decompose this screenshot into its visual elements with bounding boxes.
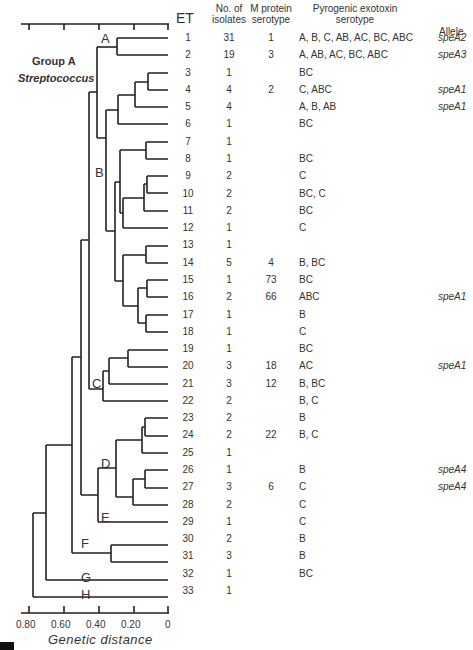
row-et: 33 xyxy=(176,585,200,597)
row-et: 27 xyxy=(176,481,200,493)
row-isolates: 1 xyxy=(217,464,241,476)
top-axis xyxy=(21,24,169,30)
row-et: 32 xyxy=(176,568,200,580)
row-et: 9 xyxy=(176,170,200,182)
row-toxin: C xyxy=(299,222,306,234)
cluster-label-f: F xyxy=(81,536,89,551)
row-allele: speA1 xyxy=(438,84,466,96)
row-et: 8 xyxy=(176,153,200,165)
row-et: 5 xyxy=(176,101,200,113)
row-toxin: B xyxy=(299,550,306,562)
row-et: 16 xyxy=(176,291,200,303)
cluster-label-g: G xyxy=(81,570,91,585)
row-isolates: 2 xyxy=(217,499,241,511)
row-toxin: C xyxy=(299,326,306,338)
row-et: 24 xyxy=(176,429,200,441)
row-isolates: 1 xyxy=(217,568,241,580)
row-m-protein: 12 xyxy=(259,378,283,390)
row-isolates: 3 xyxy=(217,481,241,493)
row-et: 15 xyxy=(176,274,200,286)
row-et: 10 xyxy=(176,188,200,200)
row-m-protein: 1 xyxy=(259,32,283,44)
header-et: ET xyxy=(176,10,194,26)
row-toxin: AC xyxy=(299,360,313,372)
row-et: 17 xyxy=(176,309,200,321)
row-isolates: 1 xyxy=(217,343,241,355)
dendrogram-branches xyxy=(21,24,169,613)
axis-tick-0-20: 0.20 xyxy=(121,619,140,630)
row-isolates: 19 xyxy=(217,49,241,61)
row-et: 31 xyxy=(176,550,200,562)
row-et: 1 xyxy=(176,32,200,44)
row-toxin: C xyxy=(299,516,306,528)
row-et: 19 xyxy=(176,343,200,355)
row-isolates: 4 xyxy=(217,101,241,113)
row-toxin: B, C xyxy=(299,395,318,407)
row-isolates: 1 xyxy=(217,274,241,286)
row-et: 18 xyxy=(176,326,200,338)
row-et: 29 xyxy=(176,516,200,528)
row-et: 13 xyxy=(176,239,200,251)
row-toxin: BC xyxy=(299,343,313,355)
row-m-protein: 6 xyxy=(259,481,283,493)
row-isolates: 1 xyxy=(217,118,241,130)
row-et: 11 xyxy=(176,205,200,217)
header-toxin-line2: serotype xyxy=(300,14,410,25)
row-isolates: 31 xyxy=(217,32,241,44)
row-allele: speA1 xyxy=(438,360,466,372)
row-m-protein: 22 xyxy=(259,429,283,441)
row-toxin: BC xyxy=(299,205,313,217)
row-isolates: 1 xyxy=(217,309,241,321)
row-toxin: BC xyxy=(299,568,313,580)
row-allele: speA3 xyxy=(438,49,466,61)
header-m-protein-line2: serotype xyxy=(248,14,294,25)
row-isolates: 4 xyxy=(217,84,241,96)
row-allele: speA1 xyxy=(438,101,466,113)
row-m-protein: 2 xyxy=(259,84,283,96)
row-et: 14 xyxy=(176,257,200,269)
row-allele: speA2 xyxy=(438,32,466,44)
row-et: 7 xyxy=(176,136,200,148)
row-isolates: 3 xyxy=(217,360,241,372)
header-isolates-line2: isolates xyxy=(208,14,250,25)
row-isolates: 1 xyxy=(217,222,241,234)
row-toxin: B, BC xyxy=(299,378,325,390)
row-toxin: A, AB, AC, BC, ABC xyxy=(299,49,388,61)
row-et: 30 xyxy=(176,533,200,545)
row-toxin: BC, C xyxy=(299,188,326,200)
row-et: 25 xyxy=(176,447,200,459)
header-toxin: Pyrogenic exotoxin serotype xyxy=(300,3,410,25)
row-et: 23 xyxy=(176,412,200,424)
row-et: 12 xyxy=(176,222,200,234)
row-toxin: BC xyxy=(299,153,313,165)
row-isolates: 2 xyxy=(217,533,241,545)
row-toxin: B xyxy=(299,412,306,424)
row-et: 28 xyxy=(176,499,200,511)
row-toxin: A, B, AB xyxy=(299,101,336,113)
row-allele: speA4 xyxy=(438,481,466,493)
row-isolates: 1 xyxy=(217,447,241,459)
row-allele: speA4 xyxy=(438,464,466,476)
row-isolates: 2 xyxy=(217,205,241,217)
axis-tick-0-80: 0.80 xyxy=(16,619,35,630)
cluster-label-a: A xyxy=(101,31,110,46)
row-isolates: 2 xyxy=(217,170,241,182)
header-isolates: No. of isolates xyxy=(208,3,250,25)
row-isolates: 2 xyxy=(217,291,241,303)
row-et: 6 xyxy=(176,118,200,130)
row-toxin: C xyxy=(299,499,306,511)
row-toxin: B xyxy=(299,533,306,545)
row-isolates: 2 xyxy=(217,395,241,407)
axis-tick-0: 0 xyxy=(165,619,171,630)
row-isolates: 1 xyxy=(217,153,241,165)
row-isolates: 3 xyxy=(217,378,241,390)
row-m-protein: 4 xyxy=(259,257,283,269)
row-m-protein: 66 xyxy=(259,291,283,303)
row-toxin: BC xyxy=(299,67,313,79)
row-et: 3 xyxy=(176,67,200,79)
row-toxin: A, B, C, AB, AC, BC, ABC xyxy=(299,32,413,44)
row-toxin: C xyxy=(299,481,306,493)
header-m-protein-line1: M protein xyxy=(248,3,294,14)
figure-title-group: Group A xyxy=(32,55,76,67)
axis-tick-0-60: 0.60 xyxy=(51,619,70,630)
